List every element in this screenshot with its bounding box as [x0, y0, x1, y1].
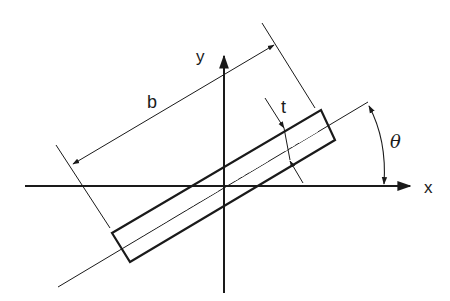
- centerline-extension: [58, 102, 368, 287]
- angle-label-theta: θ: [390, 131, 401, 152]
- dimension-line-b: [73, 45, 274, 164]
- dimension-line-t-bottom: [290, 161, 303, 183]
- dimension-line-t-mid: [284, 128, 290, 160]
- angle-arc-theta: [369, 106, 384, 184]
- extension-line-right: [262, 23, 315, 108]
- cross-section-diagram: x y b t θ: [0, 0, 450, 301]
- x-axis-label: x: [424, 178, 433, 197]
- dimension-label-b: b: [147, 92, 157, 112]
- dimension-label-t: t: [281, 97, 286, 117]
- y-axis-label: y: [196, 47, 205, 66]
